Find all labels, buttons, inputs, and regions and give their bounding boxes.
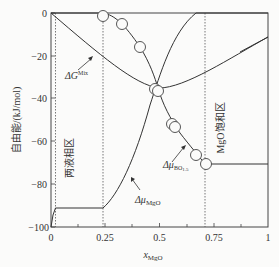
annotation-delta-mu-mgo: ΔμMgO bbox=[131, 177, 161, 207]
x-tick-075: 0.75 bbox=[205, 232, 223, 243]
y-tick-m60: −60 bbox=[31, 136, 47, 147]
experimental-points bbox=[98, 11, 212, 170]
series-delta-mu-mgo bbox=[51, 13, 268, 227]
x-tick-1: 1 bbox=[266, 232, 271, 243]
series-delta-g-mix-end bbox=[240, 37, 268, 52]
svg-text:ΔμBO1.5: ΔμBO1.5 bbox=[162, 159, 189, 172]
y-axis-title: 自由能/(kJ/mol) bbox=[10, 87, 23, 154]
y-ticks bbox=[51, 13, 55, 227]
y-tick-m100: −100 bbox=[28, 222, 49, 233]
svg-text:ΔμMgO: ΔμMgO bbox=[134, 194, 161, 207]
y-tick-0: 0 bbox=[42, 8, 47, 19]
y-tick-m40: −40 bbox=[31, 93, 47, 104]
region-label-two-liquid: 两液相区 bbox=[63, 138, 75, 178]
region-label-mgo-saturated: MgO饱和区 bbox=[215, 102, 226, 153]
x-ticks bbox=[78, 223, 241, 227]
x-axis-title: xMgO bbox=[142, 249, 162, 262]
annotation-delta-mu-bo15: ΔμBO1.5 bbox=[162, 145, 189, 172]
y-tick-m80: −80 bbox=[31, 179, 47, 190]
annotation-delta-g-mix: ΔGMix bbox=[64, 56, 93, 81]
x-tick-0: 0 bbox=[49, 232, 54, 243]
x-tick-05: 0.5 bbox=[153, 232, 166, 243]
x-tick-025: 0.25 bbox=[96, 232, 114, 243]
chart: 0 −20 −40 −60 −80 −100 0 0.25 0.5 0.75 1… bbox=[0, 0, 279, 267]
y-tick-m20: −20 bbox=[31, 51, 47, 62]
svg-text:ΔGMix: ΔGMix bbox=[64, 70, 88, 81]
plot-frame bbox=[51, 13, 268, 227]
